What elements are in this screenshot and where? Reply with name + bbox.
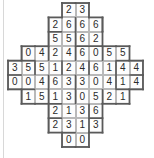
domino-cell[interactable]: 0: [89, 75, 103, 89]
domino-cell[interactable]: 6: [76, 17, 90, 31]
domino-cell[interactable]: 2: [62, 3, 76, 17]
domino-cell[interactable]: 0: [22, 75, 36, 89]
domino-cell[interactable]: 2: [49, 46, 63, 60]
domino-cell[interactable]: 4: [35, 46, 49, 60]
domino-cell[interactable]: 5: [22, 61, 36, 75]
domino-cell[interactable]: 2: [49, 118, 63, 132]
domino-cell[interactable]: 3: [62, 75, 76, 89]
domino-cell[interactable]: 5: [116, 46, 130, 60]
domino-cell[interactable]: 5: [103, 46, 117, 60]
domino-cell[interactable]: 5: [62, 32, 76, 46]
domino-cell[interactable]: 6: [89, 104, 103, 118]
domino-cell[interactable]: 6: [76, 32, 90, 46]
domino-cell[interactable]: 4: [116, 61, 130, 75]
domino-cell[interactable]: 3: [8, 61, 22, 75]
domino-cell[interactable]: 2: [49, 17, 63, 31]
domino-cell[interactable]: 6: [62, 17, 76, 31]
domino-cell[interactable]: 6: [89, 17, 103, 31]
domino-cell[interactable]: 2: [49, 104, 63, 118]
domino-cell[interactable]: 6: [49, 75, 63, 89]
domino-cell[interactable]: 1: [116, 89, 130, 103]
domino-cell[interactable]: 4: [62, 46, 76, 60]
domino-cell[interactable]: 6: [76, 46, 90, 60]
domino-cell[interactable]: 0: [76, 89, 90, 103]
domino-cell[interactable]: 1: [116, 75, 130, 89]
domino-cell[interactable]: 0: [22, 46, 36, 60]
domino-cell[interactable]: 3: [76, 75, 90, 89]
domino-cell[interactable]: 1: [49, 89, 63, 103]
domino-cell[interactable]: 5: [89, 89, 103, 103]
domino-cell[interactable]: 4: [130, 75, 144, 89]
domino-cell[interactable]: 0: [8, 75, 22, 89]
domino-cell[interactable]: 1: [49, 61, 63, 75]
domino-cell[interactable]: 2: [103, 89, 117, 103]
domino-cell[interactable]: 0: [62, 133, 76, 147]
domino-cell[interactable]: 3: [76, 3, 90, 17]
domino-cell[interactable]: 5: [35, 89, 49, 103]
domino-grid: 2326665562042460553551246144004633041415…: [0, 0, 154, 158]
domino-cell[interactable]: 4: [130, 61, 144, 75]
domino-cell[interactable]: 1: [62, 104, 76, 118]
domino-cell[interactable]: 5: [35, 61, 49, 75]
domino-cell[interactable]: 4: [103, 75, 117, 89]
domino-cell[interactable]: 0: [76, 133, 90, 147]
domino-cell[interactable]: 2: [62, 61, 76, 75]
domino-cell[interactable]: 0: [89, 46, 103, 60]
domino-puzzle-container: 2326665562042460553551246144004633041415…: [0, 0, 154, 158]
domino-cell[interactable]: 1: [22, 89, 36, 103]
domino-cell[interactable]: 3: [62, 118, 76, 132]
domino-cell[interactable]: 4: [35, 75, 49, 89]
domino-cell[interactable]: 3: [62, 89, 76, 103]
domino-cell[interactable]: 1: [76, 118, 90, 132]
domino-cell[interactable]: 3: [89, 118, 103, 132]
domino-cell[interactable]: 6: [89, 61, 103, 75]
domino-cell[interactable]: 3: [76, 104, 90, 118]
domino-cell[interactable]: 1: [103, 61, 117, 75]
domino-cell[interactable]: 5: [49, 32, 63, 46]
domino-cell[interactable]: 2: [89, 32, 103, 46]
domino-cell[interactable]: 4: [76, 61, 90, 75]
